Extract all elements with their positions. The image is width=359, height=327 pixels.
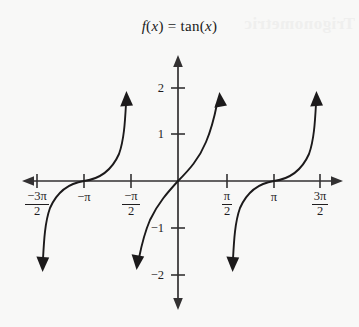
fraction-denominator: 2 [312,205,329,218]
fraction-neg-pi-over-2: −π 2 [122,190,139,218]
y-axis-top-arrow-icon [173,55,183,67]
y-tick-label-2: 2 [146,81,164,96]
x-axis-left-arrow-icon [22,176,34,186]
fraction-denominator: 2 [222,205,232,218]
x-tick-label-neg-pi-over-2: −π 2 [110,190,152,219]
curve-branch-right-outer [274,104,316,181]
x-tick-label-pi-over-2: π 2 [208,190,246,219]
x-tick-label-pi: π [259,190,289,205]
fraction-neg-3pi-over-2: −3π 2 [25,190,49,218]
y-tick-label-neg-1: −1 [141,221,164,236]
curve-arrow-left-outer-down-icon [36,257,49,272]
fraction-numerator: −3π [25,190,49,203]
fraction-denominator: 2 [25,205,49,218]
fraction-numerator: −π [122,190,139,203]
curve-arrow-right-outer-up-icon [310,91,323,106]
x-tick-label-3pi-over-2: 3π 2 [299,190,341,219]
x-axis-right-arrow-icon [331,176,343,186]
curve-arrow-right-inner-down-icon [226,257,239,272]
y-axis-bottom-arrow-icon [173,298,183,310]
tangent-function-figure: Trigonometric f(x) = tan(x) [0,0,359,327]
y-tick-label-neg-2: −2 [141,268,164,283]
fraction-denominator: 2 [122,205,139,218]
curve-branch-center-upper [178,104,217,181]
fraction-numerator: π [222,190,232,203]
curve-arrow-center-up-icon [214,92,227,108]
fraction-numerator: 3π [312,190,329,203]
plot-canvas [0,0,359,327]
fraction-pi-over-2: π 2 [222,190,232,218]
curve-branch-left-inner [84,104,126,181]
x-tick-label-neg-pi: −π [68,190,100,205]
y-tick-label-1: 1 [146,127,164,142]
curve-arrow-left-inner-up-icon [120,91,133,106]
x-tick-label-neg-3pi-over-2: −3π 2 [15,190,59,219]
fraction-3pi-over-2: 3π 2 [312,190,329,218]
